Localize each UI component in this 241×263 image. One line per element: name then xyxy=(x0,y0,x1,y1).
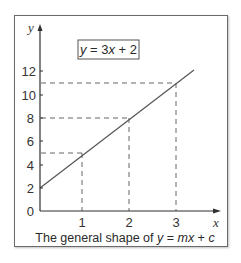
x-axis-label: x xyxy=(212,215,219,230)
y-tick-4: 4 xyxy=(27,158,34,173)
chart-svg: 0 2 4 6 8 10 12 1 2 3 y x y = 3x + 2 The… xyxy=(0,0,241,263)
equation-label: y = 3x + 2 xyxy=(79,42,137,57)
y-tick-2: 2 xyxy=(27,181,34,196)
y-tick-8: 8 xyxy=(27,111,34,126)
guide-lines xyxy=(41,83,176,211)
y-axis-label: y xyxy=(26,20,34,35)
y-tick-6: 6 xyxy=(27,134,34,149)
y-tick-10: 10 xyxy=(22,88,36,103)
y-tick-12: 12 xyxy=(22,64,36,79)
x-tick-2: 2 xyxy=(125,215,132,230)
x-axis-arrow-icon xyxy=(213,209,221,214)
x-tick-1: 1 xyxy=(78,215,85,230)
x-tick-3: 3 xyxy=(172,215,179,230)
y-tick-0: 0 xyxy=(27,204,34,219)
data-line xyxy=(40,70,194,188)
y-axis-arrow-icon xyxy=(38,24,43,31)
chart-caption: The general shape of y = mx + c xyxy=(35,231,215,245)
